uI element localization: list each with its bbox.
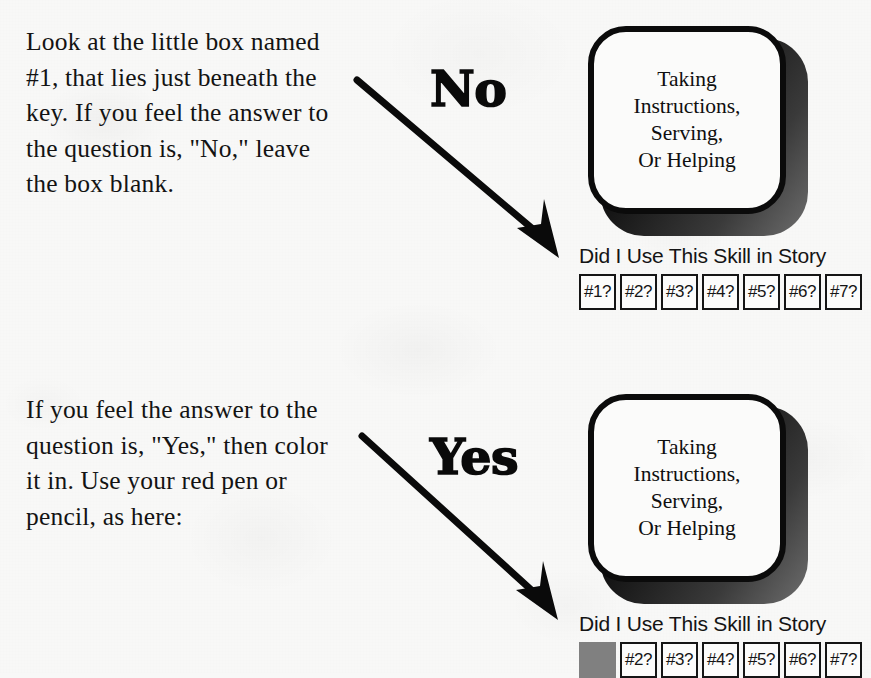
instruction-text-no: Look at the little box named #1, that li… <box>26 24 346 202</box>
checkbox-cell[interactable]: #6? <box>784 642 821 678</box>
skill-card-group-no: Taking Instructions, Serving, Or Helping… <box>578 18 862 310</box>
skill-card-no: Taking Instructions, Serving, Or Helping <box>578 18 820 236</box>
checkbox-cell[interactable]: #7? <box>825 642 862 678</box>
checkbox-cell[interactable]: #4? <box>702 642 739 678</box>
checkbox-cell[interactable]: #3? <box>661 642 698 678</box>
checkbox-cell[interactable]: #7? <box>825 274 862 310</box>
checkbox-cell[interactable]: #2? <box>620 642 657 678</box>
checkbox-grid-caption: Did I Use This Skill in Story <box>579 244 862 268</box>
checkbox-cell[interactable]: #6? <box>784 274 821 310</box>
skill-card-label: Taking Instructions, Serving, Or Helping <box>628 434 747 542</box>
checkbox-cell[interactable]: #4? <box>702 274 739 310</box>
diagonal-down-right-arrow-no <box>345 68 575 268</box>
checkbox-row-yes: #1? #2? #3? #4? #5? #6? #7? <box>579 642 862 678</box>
checkbox-cell[interactable]: #5? <box>743 274 780 310</box>
skill-card-group-yes: Taking Instructions, Serving, Or Helping… <box>578 386 862 678</box>
checkbox-cell[interactable]: #2? <box>620 274 657 310</box>
skill-card-yes: Taking Instructions, Serving, Or Helping <box>578 386 820 604</box>
checkbox-cell[interactable]: #1? <box>579 274 616 310</box>
skill-card-label: Taking Instructions, Serving, Or Helping <box>628 66 747 174</box>
checkbox-row-no: #1? #2? #3? #4? #5? #6? #7? <box>579 274 862 310</box>
checkbox-cell[interactable]: #3? <box>661 274 698 310</box>
skill-card-face: Taking Instructions, Serving, Or Helping <box>588 26 786 214</box>
skill-card-face: Taking Instructions, Serving, Or Helping <box>588 394 786 582</box>
checkbox-cell[interactable]: #5? <box>743 642 780 678</box>
checkbox-cell-filled[interactable]: #1? <box>579 642 616 678</box>
instruction-text-yes: If you feel the answer to the question i… <box>26 392 346 534</box>
checkbox-grid-caption: Did I Use This Skill in Story <box>579 612 862 636</box>
diagonal-down-right-arrow-yes <box>350 424 575 629</box>
